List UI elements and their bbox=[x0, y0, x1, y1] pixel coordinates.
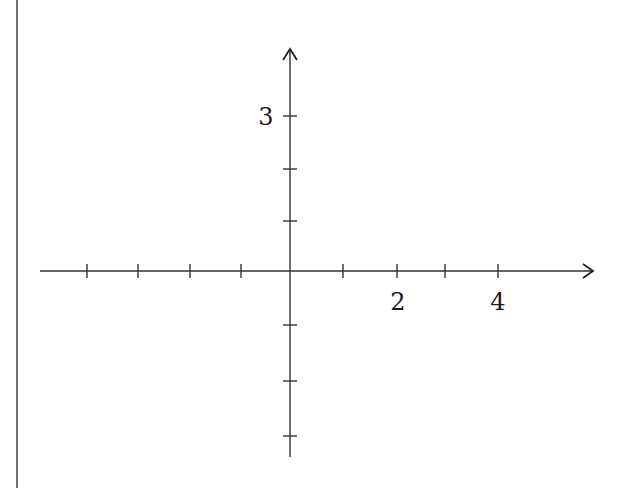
x-axis: 2 4 bbox=[40, 264, 593, 316]
coordinate-plane: 2 4 3 bbox=[0, 0, 638, 488]
x-tick-label-4: 4 bbox=[490, 288, 505, 316]
y-tick-label-3: 3 bbox=[258, 103, 273, 131]
y-axis: 3 bbox=[258, 49, 297, 457]
x-tick-label-2: 2 bbox=[390, 288, 405, 316]
